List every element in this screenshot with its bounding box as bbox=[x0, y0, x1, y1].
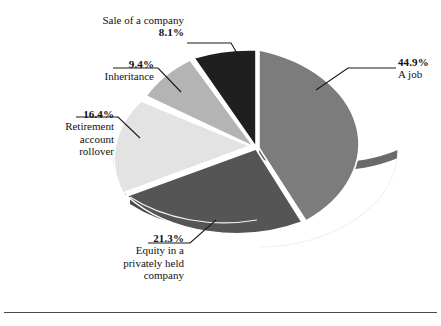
label-sale-percent: 8.1% bbox=[66, 26, 184, 38]
label-sale-name: Sale of a company bbox=[66, 14, 184, 26]
label-retirement-percent: 16.4% bbox=[2, 108, 114, 120]
label-inheritance-name: Inheritance bbox=[36, 70, 154, 82]
label-equity-line3: company bbox=[66, 269, 184, 281]
label-inheritance-percent: 9.4% bbox=[36, 58, 154, 70]
label-equity-percent: 21.3% bbox=[66, 232, 184, 244]
label-a-job: 44.9% A job bbox=[398, 56, 429, 81]
label-equity: 21.3% Equity in a privately held company bbox=[66, 232, 184, 282]
label-retirement: 16.4% Retirement account rollover bbox=[2, 108, 114, 158]
label-equity-line2: privately held bbox=[66, 257, 184, 269]
label-retirement-line3: rollover bbox=[2, 145, 114, 157]
label-inheritance: 9.4% Inheritance bbox=[36, 58, 154, 83]
label-a-job-percent: 44.9% bbox=[398, 56, 429, 68]
label-retirement-line1: Retirement bbox=[2, 120, 114, 132]
label-a-job-name: A job bbox=[398, 68, 429, 80]
label-sale: Sale of a company 8.1% bbox=[66, 14, 184, 39]
label-equity-line1: Equity in a bbox=[66, 244, 184, 256]
label-retirement-line2: account bbox=[2, 133, 114, 145]
bottom-rule bbox=[4, 312, 437, 313]
pie-chart: 44.9% A job Sale of a company 8.1% 9.4% … bbox=[0, 0, 441, 326]
